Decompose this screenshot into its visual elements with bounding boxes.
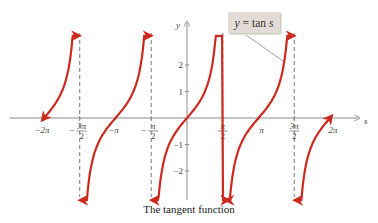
y-axis-label: y [175,20,180,30]
y-tick-label: −1 [173,140,183,150]
x-tick-label: 2π [328,125,338,135]
tangent-chart: sy −2π−3π2−π−π2π2π3π22π21−1−2 [0,0,378,223]
x-tick-label: 2 [79,131,84,141]
tangent-branch [44,36,77,118]
x-tick-label: π [151,121,156,131]
axes: sy [10,20,368,200]
legend-label: y = tan s [235,17,274,29]
y-tick-label: 1 [179,87,184,97]
legend-leader-line [246,35,283,61]
y-tick-label: 2 [179,60,184,70]
tangent-branch [298,118,330,200]
x-tick-label: 2 [292,131,297,141]
x-tick-label: π [259,125,264,135]
x-tick-label: −π [108,125,119,135]
chart-caption: The tangent function [0,203,378,215]
x-tick-label: − [69,125,74,135]
x-tick-label: 3π [76,121,87,131]
x-tick-label: − [141,125,146,135]
legend-label-box: y = tan s [228,12,280,33]
x-tick-label: 2 [151,131,156,141]
x-tick-label: −2π [34,125,50,135]
x-tick-label: 3π [289,121,300,131]
y-tick-label: −2 [173,166,183,176]
x-axis-label: s [364,116,368,126]
